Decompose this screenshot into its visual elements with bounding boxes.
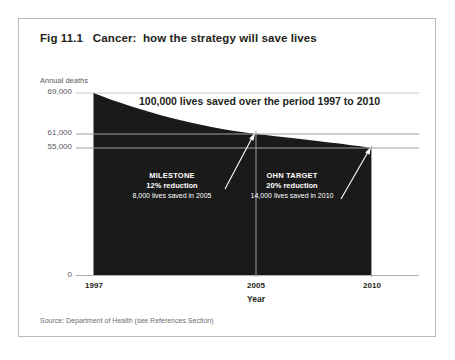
annotation-ohn-target-subtitle: 20% reduction (217, 181, 367, 191)
y-axis-caption: Annual deaths (40, 76, 88, 85)
annotation-ohn-target-title: OHN TARGET (217, 171, 367, 181)
y-tick-label-61000: 61,000 (30, 128, 72, 137)
headline-callout: 100,000 lives saved over the period 1997… (139, 95, 380, 107)
x-tick-label-1997: 1997 (73, 281, 115, 290)
source-note: Source: Department of Health (see Refere… (40, 317, 214, 324)
x-tick-label-2005: 2005 (235, 281, 277, 290)
annotation-ohn-target: OHN TARGET 20% reduction 14,000 lives sa… (217, 171, 367, 201)
y-tick-label-69000: 69,000 (30, 87, 72, 96)
y-tick-label-55000: 55,000 (30, 142, 72, 151)
figure-frame: Fig 11.1 Cancer: how the strategy will s… (18, 18, 436, 337)
x-axis-title: Year (213, 294, 299, 304)
x-tick-label-2010: 2010 (351, 281, 393, 290)
chart-plot-area: Annual deaths 69,000 61,000 55,000 0 199… (19, 19, 437, 338)
y-tick-label-0: 0 (30, 270, 72, 279)
annotation-ohn-target-detail: 14,000 lives saved in 2010 (217, 191, 367, 201)
